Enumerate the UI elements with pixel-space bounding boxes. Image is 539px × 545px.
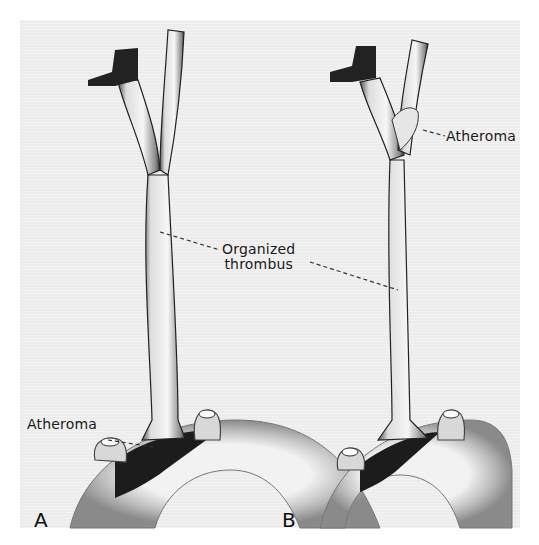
panel-letter-b: B xyxy=(282,508,296,532)
panel-a-drawing xyxy=(70,30,380,528)
organized-thrombus-label: Organized thrombus xyxy=(222,242,295,272)
panel-letter-a: A xyxy=(34,508,48,532)
atheroma-label-b: Atheroma xyxy=(446,129,516,144)
label-line-1: Organized xyxy=(222,242,295,257)
label-line-2: thrombus xyxy=(222,257,295,272)
atheroma-label-a: Atheroma xyxy=(27,417,97,432)
panel-b-drawing xyxy=(320,40,512,528)
carotid-artery-illustration xyxy=(0,0,539,545)
